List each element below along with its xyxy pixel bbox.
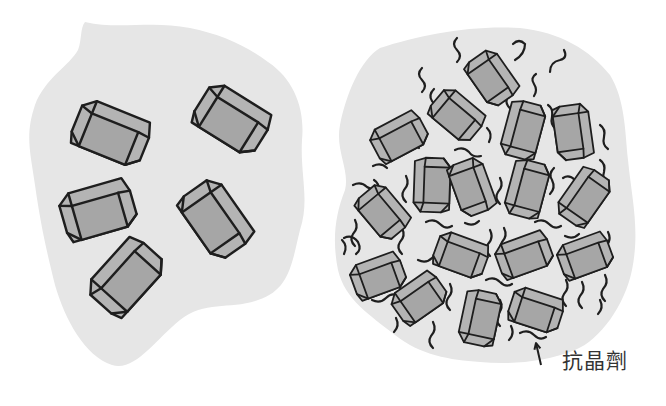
anti-crystallization-agent-label: 抗晶劑 — [562, 344, 628, 374]
crystal-prism — [413, 157, 451, 212]
left-panel-without-agent — [29, 22, 304, 366]
crystal-prism — [552, 103, 595, 161]
right-panel-with-agent — [335, 27, 636, 365]
